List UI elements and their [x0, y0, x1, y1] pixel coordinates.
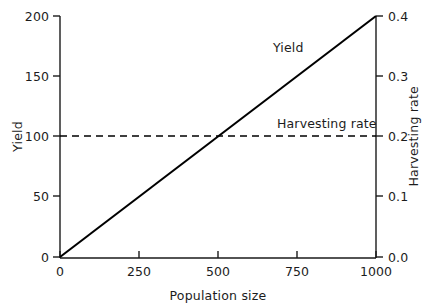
x-axis-tick-label-500: 500 [193, 264, 243, 279]
series-annotation-harvesting-rate: Harvesting rate [277, 116, 377, 131]
y-axis-right-tick-label-0p4: 0.4 [388, 9, 408, 24]
y-axis-left-tick-label-50: 50 [20, 189, 49, 204]
chart-container: 200 150 100 50 0 0 250 500 750 1000 0.4 … [0, 0, 428, 308]
y-axis-left-title: Yield [10, 107, 25, 167]
x-axis-tick-label-1000: 1000 [348, 264, 404, 279]
x-axis-title: Population size [158, 288, 278, 303]
chart-plot-area [0, 0, 428, 308]
x-axis-tick-label-750: 750 [272, 264, 322, 279]
y-axis-right-tick-label-0p1: 0.1 [388, 189, 408, 204]
y-axis-right-title: Harvesting rate [406, 87, 421, 187]
y-axis-right-tick-label-0p3: 0.3 [388, 69, 408, 84]
y-axis-left-tick-label-200: 200 [20, 9, 49, 24]
series-annotation-yield: Yield [273, 40, 304, 55]
y-axis-left-tick-label-150: 150 [20, 69, 49, 84]
x-axis-tick-label-0: 0 [50, 264, 70, 279]
y-axis-right-tick-label-0p0: 0.0 [388, 250, 408, 265]
y-axis-left-tick-label-0: 0 [20, 250, 49, 265]
x-axis-tick-label-250: 250 [114, 264, 164, 279]
